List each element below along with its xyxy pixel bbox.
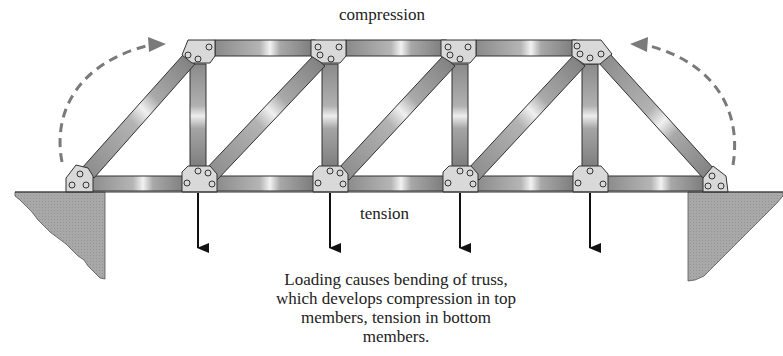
- gusset-bottom-4: [573, 166, 608, 192]
- bottom-chord: [88, 176, 706, 191]
- caption-line-4: members.: [236, 327, 556, 346]
- caption-line-1: Loading causes bending of truss,: [236, 270, 556, 289]
- tension-label: tension: [360, 205, 409, 223]
- gusset-bottom-2: [313, 166, 348, 192]
- gusset-bottom-1: [182, 166, 217, 192]
- gusset-bottom-end-left: [66, 165, 93, 192]
- gusset-top-3: [441, 40, 476, 63]
- gusset-top-1: [182, 40, 215, 63]
- caption-line-3: members, tension in bottom: [236, 308, 556, 327]
- gusset-bottom-3: [443, 166, 478, 192]
- top-chord: [215, 40, 576, 56]
- caption-line-2: which develops compression in top: [236, 289, 556, 308]
- compression-label: compression: [339, 6, 425, 24]
- left-abutment: [15, 192, 105, 279]
- gusset-top-2: [311, 40, 346, 63]
- right-abutment: [688, 192, 783, 281]
- caption: Loading causes bending of truss, which d…: [236, 270, 556, 346]
- diagonal-members: [82, 54, 715, 180]
